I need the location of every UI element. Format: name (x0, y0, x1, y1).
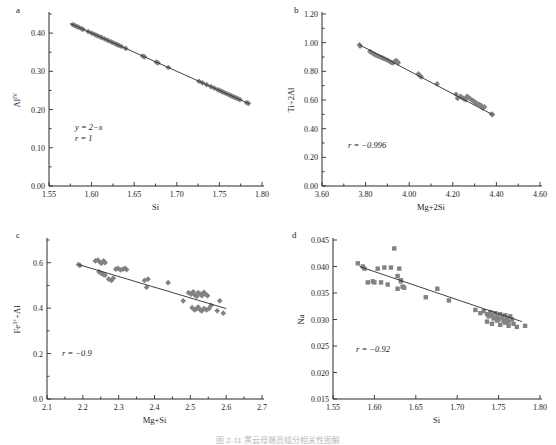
svg-text:2.7: 2.7 (257, 403, 267, 412)
svg-text:4.00: 4.00 (402, 190, 416, 199)
svg-text:1.70: 1.70 (450, 403, 464, 412)
svg-text:r = 1: r = 1 (75, 133, 93, 143)
svg-text:0.035: 0.035 (311, 289, 329, 298)
svg-text:Si: Si (152, 202, 160, 212)
svg-text:1.00: 1.00 (304, 39, 318, 48)
svg-text:0.20: 0.20 (304, 153, 318, 162)
svg-text:0.015: 0.015 (311, 395, 329, 404)
svg-text:0.00: 0.00 (31, 182, 45, 191)
svg-text:AlIV: AlIV (12, 92, 22, 107)
panel-c-plot: 2.12.22.32.42.52.62.70.00.20.40.6r = −0.… (0, 222, 278, 435)
svg-text:1.75: 1.75 (212, 190, 226, 199)
svg-text:0.2: 0.2 (33, 350, 43, 359)
svg-text:Ti+2Al: Ti+2Al (286, 87, 296, 112)
panel-c: c 2.12.22.32.42.52.62.70.00.20.40.6r = −… (0, 222, 278, 435)
svg-text:Si: Si (433, 415, 441, 425)
panel-d: d 1.551.601.651.701.751.800.0150.0200.02… (278, 222, 556, 435)
panel-d-plot: 1.551.601.651.701.751.800.0150.0200.0250… (278, 222, 556, 435)
svg-text:1.80: 1.80 (255, 190, 269, 199)
svg-text:1.80: 1.80 (533, 403, 547, 412)
panel-d-letter: d (292, 230, 297, 240)
svg-text:0.030: 0.030 (311, 316, 329, 325)
svg-text:2.6: 2.6 (221, 403, 231, 412)
panel-b-letter: b (294, 5, 299, 15)
svg-text:0.020: 0.020 (311, 369, 329, 378)
svg-text:1.65: 1.65 (409, 403, 423, 412)
svg-text:1.20: 1.20 (304, 10, 318, 19)
svg-text:4.40: 4.40 (489, 190, 503, 199)
svg-text:2.3: 2.3 (114, 403, 124, 412)
svg-text:3.60: 3.60 (315, 190, 329, 199)
svg-text:1.70: 1.70 (170, 190, 184, 199)
svg-text:1.75: 1.75 (492, 403, 506, 412)
svg-text:1.60: 1.60 (367, 403, 381, 412)
svg-text:Mg+2Si: Mg+2Si (417, 202, 446, 212)
svg-text:2.2: 2.2 (78, 403, 88, 412)
svg-text:2.1: 2.1 (42, 403, 52, 412)
svg-text:4.60: 4.60 (533, 190, 547, 199)
svg-text:3.80: 3.80 (359, 190, 373, 199)
panel-a: a 1.551.601.651.701.751.800.000.100.200.… (0, 0, 278, 222)
svg-text:0.040: 0.040 (311, 263, 329, 272)
svg-text:r = −0.9: r = −0.9 (62, 348, 92, 358)
svg-text:0.6: 0.6 (33, 259, 43, 268)
svg-text:0.80: 0.80 (304, 67, 318, 76)
panel-a-plot: 1.551.601.651.701.751.800.000.100.200.30… (0, 0, 278, 222)
panel-b: b 3.603.804.004.204.404.600.000.200.400.… (278, 0, 556, 222)
svg-text:0.40: 0.40 (304, 125, 318, 134)
svg-text:0.0: 0.0 (33, 395, 43, 404)
figure-caption: 图 2-11 黑云母端员组分相关性图解 (0, 435, 556, 445)
figure-container: a 1.551.601.651.701.751.800.000.100.200.… (0, 0, 556, 445)
svg-text:1.55: 1.55 (326, 403, 340, 412)
panel-a-letter: a (16, 5, 20, 15)
svg-text:r = −0.996: r = −0.996 (348, 140, 387, 150)
svg-text:Na: Na (296, 314, 306, 324)
svg-text:0.00: 0.00 (304, 182, 318, 191)
svg-text:0.20: 0.20 (31, 106, 45, 115)
svg-text:y = 2−x: y = 2−x (74, 122, 103, 132)
svg-text:2.4: 2.4 (150, 403, 160, 412)
svg-text:4.20: 4.20 (446, 190, 460, 199)
panel-c-letter: c (16, 230, 20, 240)
svg-text:0.4: 0.4 (33, 304, 43, 313)
svg-text:2.5: 2.5 (185, 403, 195, 412)
svg-text:Mg+Si: Mg+Si (143, 415, 167, 425)
svg-text:0.10: 0.10 (31, 144, 45, 153)
svg-text:0.025: 0.025 (311, 342, 329, 351)
svg-text:r = −0.92: r = −0.92 (356, 344, 391, 354)
svg-text:0.045: 0.045 (311, 236, 329, 245)
svg-text:Fe3++Al: Fe3++Al (12, 305, 22, 334)
svg-text:1.65: 1.65 (127, 190, 141, 199)
svg-text:0.60: 0.60 (304, 96, 318, 105)
svg-text:1.60: 1.60 (85, 190, 99, 199)
panel-b-plot: 3.603.804.004.204.404.600.000.200.400.60… (278, 0, 556, 222)
svg-text:0.30: 0.30 (31, 67, 45, 76)
svg-text:1.55: 1.55 (42, 190, 56, 199)
svg-text:0.40: 0.40 (31, 29, 45, 38)
